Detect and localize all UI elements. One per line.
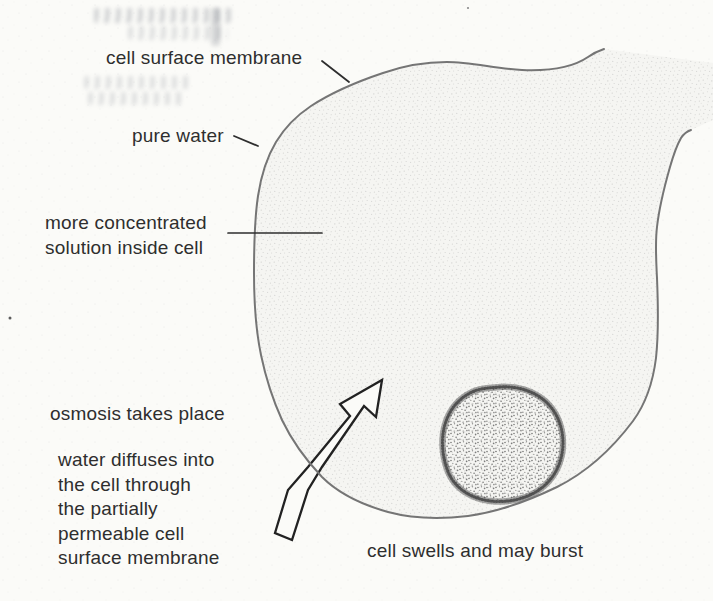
- ink-bleedthrough-smudge: [84, 76, 192, 89]
- label-pure-water: pure water: [132, 124, 224, 149]
- label-line: water diffuses into: [58, 448, 220, 473]
- label-cell-surface-membrane: cell surface membrane: [106, 46, 302, 71]
- label-line: permeable cell: [58, 522, 220, 547]
- ink-bleedthrough-smudge: [211, 8, 220, 46]
- label-line: the partially: [58, 497, 220, 522]
- label-line: more concentrated: [45, 211, 207, 236]
- label-cell-swells: cell swells and may burst: [367, 539, 583, 564]
- label-line: the cell through: [58, 473, 220, 498]
- label-osmosis-takes-place: osmosis takes place: [50, 402, 225, 427]
- label-more-concentrated-solution: more concentrated solution inside cell: [45, 211, 207, 260]
- label-line: solution inside cell: [45, 236, 207, 261]
- ink-speck: [9, 317, 12, 320]
- ink-speck: [467, 7, 469, 9]
- ink-bleedthrough-smudge: [88, 92, 186, 105]
- label-water-diffuses: water diffuses into the cell through the…: [58, 448, 220, 571]
- osmosis-diagram-page: cell surface membrane pure water more co…: [0, 0, 713, 601]
- label-line: surface membrane: [58, 546, 220, 571]
